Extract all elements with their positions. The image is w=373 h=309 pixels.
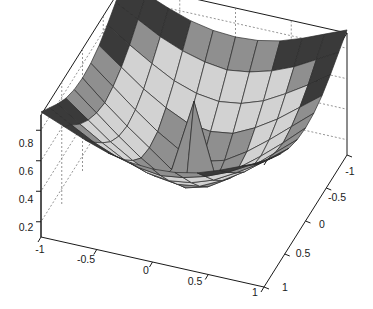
tick-mark-x (38, 237, 41, 242)
tick-label-z: 0.2 (19, 221, 34, 233)
tick-label-z: 0.8 (19, 137, 34, 149)
tick-label-x: 1 (252, 286, 258, 298)
tick-label-y: 0.5 (296, 247, 311, 259)
tick-mark-y (285, 254, 290, 256)
surface-plot-canvas: 0.80.60.40.2-1-0.500.51-1-0.500.51 (0, 0, 373, 309)
tick-label-x: -1 (35, 243, 44, 255)
tick-label-y: 0 (319, 218, 325, 230)
tick-label-z: 0.4 (19, 193, 34, 205)
tick-label-z: 0.6 (19, 165, 34, 177)
tick-mark-x (150, 262, 153, 267)
tick-mark-y (306, 221, 311, 223)
tick-mark-y (264, 287, 269, 289)
tick-mark-x (261, 287, 264, 292)
tick-label-x: 0 (143, 264, 149, 276)
tick-mark-y (326, 188, 331, 190)
tick-mark-y (347, 155, 352, 157)
tick-mark-x (205, 275, 208, 280)
surface-plot-figure: 0.80.60.40.2-1-0.500.51-1-0.500.51 (0, 0, 373, 309)
tick-label-y: 1 (282, 281, 288, 293)
tick-label-y: -0.5 (328, 191, 346, 203)
tick-label-y: -1 (345, 165, 354, 177)
tick-label-x: 0.5 (188, 275, 203, 287)
tick-label-x: -0.5 (77, 253, 95, 265)
surface-mesh (41, 0, 347, 188)
